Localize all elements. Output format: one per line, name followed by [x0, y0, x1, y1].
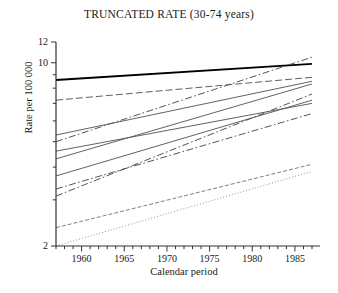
- plot-area: 12102 196019651970197519801985: [0, 0, 338, 293]
- chart-line-series-10: [56, 164, 312, 227]
- x-tick-label: 1985: [285, 253, 305, 264]
- chart-line-series-5: [56, 84, 312, 159]
- x-tick-label: 1960: [72, 253, 92, 264]
- chart-line-series-11: [56, 171, 312, 246]
- y-tick-label: 10: [38, 57, 48, 68]
- y-tick-layer: 12102: [38, 36, 56, 251]
- chart-line-series-9: [56, 114, 312, 189]
- chart-line-series-2: [56, 57, 312, 141]
- x-tick-layer: 196019651970197519801985: [56, 246, 312, 264]
- x-tick-label: 1970: [157, 253, 177, 264]
- chart-container: TRUNCATED RATE (30-74 years) Rate per 10…: [0, 0, 338, 293]
- chart-line-series-1: [56, 64, 312, 80]
- x-tick-label: 1975: [200, 253, 220, 264]
- y-tick-label: 12: [38, 36, 48, 47]
- chart-line-series-3: [56, 77, 312, 100]
- x-tick-label: 1980: [242, 253, 262, 264]
- chart-line-series-8: [56, 94, 312, 196]
- chart-line-series-7: [56, 100, 312, 176]
- series-layer: [56, 57, 312, 246]
- x-tick-label: 1965: [114, 253, 134, 264]
- y-tick-label: 2: [43, 240, 48, 251]
